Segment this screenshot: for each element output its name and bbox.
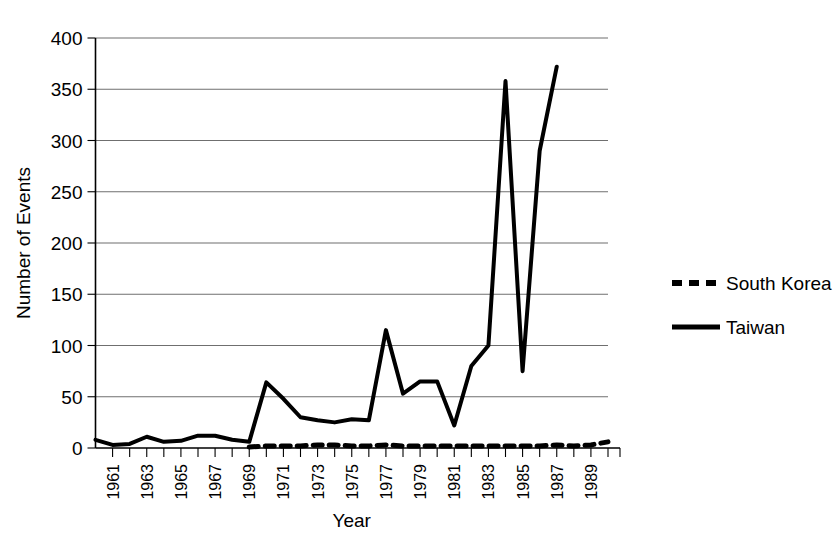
x-tick-label: 1975 (344, 464, 361, 500)
x-tick-label: 1977 (378, 464, 395, 500)
y-tick-label: 250 (51, 182, 83, 203)
x-tick-label: 1973 (310, 464, 327, 500)
y-axis-ticks (88, 38, 96, 448)
x-tick-label: 1983 (480, 464, 497, 500)
x-tick-label: 1985 (515, 464, 532, 500)
data-series (96, 67, 609, 447)
y-tick-label: 100 (51, 336, 83, 357)
chart-legend: South KoreaTaiwan (672, 273, 832, 338)
y-tick-label: 400 (51, 28, 83, 49)
y-tick-label: 50 (61, 387, 82, 408)
y-axis-tick-labels: 050100150200250300350400 (51, 28, 83, 459)
x-tick-label: 1969 (241, 464, 258, 500)
y-tick-label: 0 (72, 438, 83, 459)
series-line-south-korea (249, 442, 608, 447)
y-tick-label: 150 (51, 284, 83, 305)
gridlines (96, 38, 609, 397)
x-tick-label: 1965 (173, 464, 190, 500)
x-tick-label: 1989 (583, 464, 600, 500)
x-axis-ticks (113, 448, 620, 457)
chart-figure: 050100150200250300350400 196119631965196… (0, 0, 839, 544)
y-tick-label: 300 (51, 131, 83, 152)
x-tick-label: 1971 (275, 464, 292, 500)
x-tick-label: 1967 (207, 464, 224, 500)
y-axis-title: Number of Events (13, 167, 34, 319)
x-tick-label: 1979 (412, 464, 429, 500)
legend-label-south-korea: South Korea (726, 273, 832, 294)
y-tick-label: 200 (51, 233, 83, 254)
series-line-taiwan (96, 67, 557, 445)
x-axis-tick-labels: 1961196319651967196919711973197519771979… (105, 464, 600, 500)
y-tick-label: 350 (51, 79, 83, 100)
x-tick-label: 1987 (549, 464, 566, 500)
x-tick-label: 1963 (139, 464, 156, 500)
line-chart: 050100150200250300350400 196119631965196… (0, 0, 839, 544)
x-axis-title: Year (333, 510, 372, 531)
x-tick-label: 1961 (105, 464, 122, 500)
legend-label-taiwan: Taiwan (726, 317, 785, 338)
x-tick-label: 1981 (446, 464, 463, 500)
